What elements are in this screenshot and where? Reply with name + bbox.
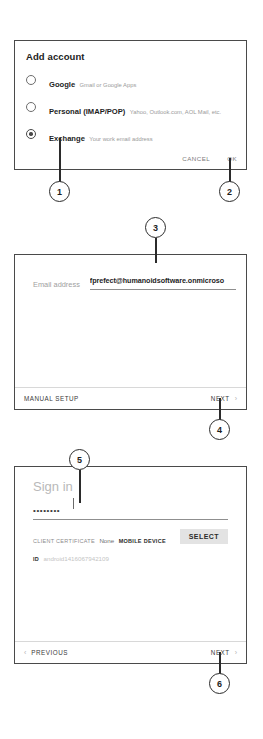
email-input[interactable]: fprefect@humanoidsoftware.onmicroso xyxy=(90,269,236,290)
add-account-dialog: Add account Google Gmail or Google Apps … xyxy=(14,40,247,170)
client-certificate-block: CLIENT CERTIFICATE None MOBILE DEVICE ID… xyxy=(33,529,228,565)
callout-marker-4: 4 xyxy=(209,419,230,440)
account-type-option-list: Google Gmail or Google Apps Personal (IM… xyxy=(15,70,246,151)
callout-marker-2: 2 xyxy=(219,181,240,202)
account-option-google[interactable]: Google Gmail or Google Apps xyxy=(15,70,246,97)
account-option-exchange-sublabel: Your work email address xyxy=(89,136,152,142)
manual-setup-button[interactable]: MANUAL SETUP xyxy=(24,395,79,402)
client-certificate-text: CLIENT CERTIFICATE None MOBILE DEVICE ID… xyxy=(33,529,172,565)
callout-leader-3 xyxy=(155,238,157,263)
chevron-left-icon: ‹ xyxy=(24,649,26,656)
callout-leader-1 xyxy=(59,138,61,182)
account-option-personal[interactable]: Personal (IMAP/POP) Yahoo, Outlook.com, … xyxy=(15,97,246,124)
text-caret xyxy=(73,498,74,509)
email-address-screen: Email address fprefect@humanoidsoftware.… xyxy=(14,254,247,410)
password-input[interactable]: •••••••• xyxy=(33,499,228,520)
dialog-title: Add account xyxy=(26,51,246,62)
account-option-exchange-text: Exchange Your work email address xyxy=(49,127,153,145)
radio-button-exchange[interactable] xyxy=(26,129,36,139)
password-masked-value: •••••••• xyxy=(33,506,60,515)
account-option-google-text: Google Gmail or Google Apps xyxy=(49,73,136,91)
previous-label: PREVIOUS xyxy=(31,649,68,656)
manual-setup-label: MANUAL SETUP xyxy=(24,395,79,402)
next-button-signin[interactable]: NEXT › xyxy=(211,649,237,656)
callout-marker-1: 1 xyxy=(49,181,70,202)
email-input-value: fprefect@humanoidsoftware.onmicroso xyxy=(90,276,224,285)
chevron-right-icon: › xyxy=(235,395,237,402)
account-option-personal-text: Personal (IMAP/POP) Yahoo, Outlook.com, … xyxy=(49,100,221,118)
mobile-device-id-value: android1416067942109 xyxy=(44,555,109,562)
email-address-label: Email address xyxy=(33,280,80,290)
chevron-right-icon: › xyxy=(235,649,237,656)
cancel-button[interactable]: CANCEL xyxy=(182,155,210,162)
account-option-exchange-label: Exchange xyxy=(49,134,85,143)
radio-button-google[interactable] xyxy=(26,75,36,85)
callout-leader-4 xyxy=(219,398,221,420)
email-address-row: Email address fprefect@humanoidsoftware.… xyxy=(15,255,246,290)
callout-marker-6: 6 xyxy=(209,673,230,694)
callout-leader-5 xyxy=(79,470,81,503)
sign-in-title: Sign in xyxy=(33,479,246,494)
callout-leader-2 xyxy=(229,158,231,182)
client-certificate-caption: CLIENT CERTIFICATE xyxy=(33,538,95,544)
callout-marker-5: 5 xyxy=(69,449,90,470)
callout-marker-3: 3 xyxy=(145,217,166,238)
account-option-google-sublabel: Gmail or Google Apps xyxy=(80,82,137,88)
client-certificate-value: None xyxy=(99,537,114,544)
sign-in-bottom-bar: ‹ PREVIOUS NEXT › xyxy=(15,641,246,663)
select-certificate-button[interactable]: SELECT xyxy=(180,529,228,544)
next-button-email[interactable]: NEXT › xyxy=(211,395,237,402)
email-screen-bottom-bar: MANUAL SETUP NEXT › xyxy=(15,387,246,409)
sign-in-screen: Sign in •••••••• CLIENT CERTIFICATE None… xyxy=(14,466,247,664)
account-option-google-label: Google xyxy=(49,80,75,89)
account-option-exchange[interactable]: Exchange Your work email address xyxy=(15,124,246,151)
account-option-personal-label: Personal (IMAP/POP) xyxy=(49,107,125,116)
callout-leader-6 xyxy=(219,652,221,674)
previous-button[interactable]: ‹ PREVIOUS xyxy=(24,649,68,656)
radio-button-personal[interactable] xyxy=(26,102,36,112)
account-option-personal-sublabel: Yahoo, Outlook.com, AOL Mail, etc. xyxy=(130,109,221,115)
